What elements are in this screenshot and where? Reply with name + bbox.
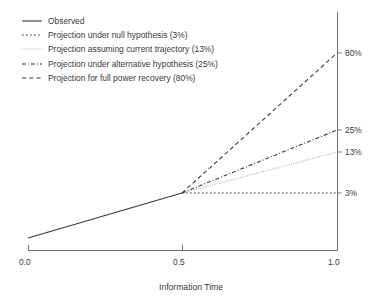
series-line-full-power-recovery (182, 53, 337, 193)
series-line-alternative-hypothesis (182, 130, 337, 193)
x-tick-label-0: 0.0 (19, 257, 31, 267)
x-tick-label-1: 1.0 (328, 257, 340, 267)
right-axis-label-80: 80% (345, 48, 362, 58)
plot-area (0, 0, 382, 304)
right-axis-label-13: 13% (345, 147, 362, 157)
right-axis-label-25: 25% (345, 125, 362, 135)
x-tick-label-05: 0.5 (173, 257, 185, 267)
x-axis-title: Information Time (0, 282, 382, 292)
right-axis-label-3: 3% (345, 188, 357, 198)
series-line-observed (28, 193, 182, 238)
chart-container: Observed Projection under null hypothesi… (0, 0, 382, 304)
